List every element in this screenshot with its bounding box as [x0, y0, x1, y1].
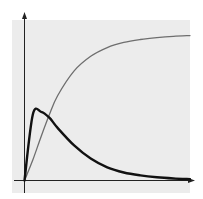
y-axis-arrow-icon [22, 12, 27, 19]
chart [0, 0, 203, 199]
plot-background [12, 20, 190, 193]
